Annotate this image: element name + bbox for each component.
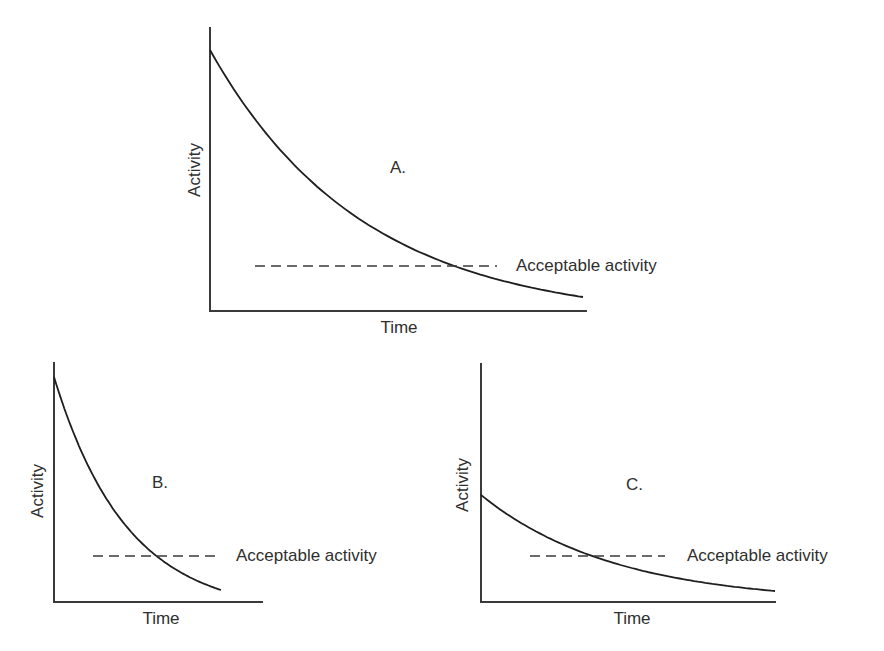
acceptable-activity-label: Acceptable activity [236,546,377,565]
x-axis-label: Time [380,318,417,337]
figure-canvas: Acceptable activity A. Time Activity Acc… [0,0,884,651]
panel-title: B. [152,473,168,492]
acceptable-activity-label: Acceptable activity [687,546,828,565]
acceptable-activity-label: Acceptable activity [516,256,657,275]
x-axis-label: Time [613,609,650,628]
panel-title: C. [626,475,643,494]
decay-curve [54,377,221,590]
chart-panel-c: Acceptable activity C. Time Activity [453,363,828,628]
y-axis-label: Activity [28,464,47,518]
chart-panel-b: Acceptable activity B. Time Activity [28,362,377,628]
x-axis-label: Time [142,609,179,628]
chart-panel-a: Acceptable activity A. Time Activity [185,27,657,337]
decay-curve [481,495,775,591]
y-axis-label: Activity [453,458,472,512]
y-axis-label: Activity [185,143,204,197]
panel-title: A. [390,158,406,177]
